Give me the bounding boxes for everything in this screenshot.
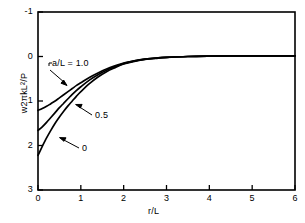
x-tick-label-6: 6 xyxy=(285,194,305,203)
x-tick-label-5: 5 xyxy=(242,194,262,203)
y-tick-label-2: 2 xyxy=(11,141,33,150)
x-tick-label-4: 4 xyxy=(199,194,219,203)
curve-label-a-over-l-1: a/L = 1.0 xyxy=(52,59,89,68)
plot-canvas xyxy=(0,0,305,223)
curve-label-a-over-l-0point5: 0.5 xyxy=(95,111,108,120)
x-tick-label-2: 2 xyxy=(114,194,134,203)
curve-label-a-over-l-0: 0 xyxy=(82,144,87,153)
y-tick-label-3: 3 xyxy=(11,185,33,194)
x-tick-label-0: 0 xyxy=(28,194,48,203)
figure: -10123 0123456 w2πkL²/P r/L a/L = 1.0 0.… xyxy=(0,0,305,223)
annotation-leaders xyxy=(49,63,92,148)
leader-arrow-a-over-l-0point5 xyxy=(76,104,83,108)
x-axis-title: r/L xyxy=(148,207,159,216)
y-axis-title-wrapper: w2πkL²/P xyxy=(13,45,27,141)
y-tick-label--1: -1 xyxy=(11,7,33,16)
x-tick-label-1: 1 xyxy=(71,194,91,203)
y-axis-title: w2πkL²/P xyxy=(20,73,29,113)
x-tick-label-3: 3 xyxy=(157,194,177,203)
plot-frame xyxy=(38,12,295,190)
